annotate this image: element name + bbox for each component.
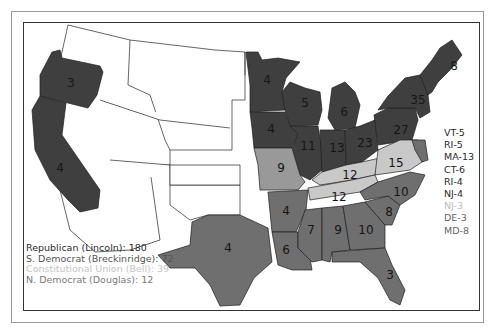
kansas-territory	[170, 165, 240, 185]
ev-label-IL: 11	[300, 139, 315, 153]
ev-label-IA: 4	[267, 122, 275, 136]
ev-label-ME: 8	[450, 59, 458, 73]
small-state-nj-ndem: NJ-3	[444, 200, 474, 212]
legend-constitutional-union: Constitutional Union (Bell): 39	[26, 264, 174, 275]
small-state-vt: VT-5	[444, 127, 474, 139]
legend: Republican (Lincoln): 180 S. Democrat (B…	[26, 243, 174, 285]
ev-label-TN: 12	[331, 190, 346, 204]
ev-label-CA: 4	[56, 161, 64, 175]
small-state-ri-2: RI-4	[444, 176, 474, 188]
ev-label-MN: 4	[263, 73, 271, 87]
ev-label-AL: 9	[334, 223, 342, 237]
state-FL	[332, 248, 405, 305]
ev-label-NY: 35	[410, 93, 425, 107]
ev-label-MS: 7	[307, 223, 315, 237]
ev-label-AR: 4	[282, 204, 290, 218]
small-state-ma: MA-13	[444, 151, 474, 163]
ev-label-OR: 3	[67, 76, 75, 90]
ev-label-FL: 3	[386, 268, 394, 282]
small-state-ri-1: RI-5	[444, 139, 474, 151]
ev-label-KY: 12	[342, 168, 357, 182]
ev-label-GA: 10	[358, 223, 373, 237]
ev-label-WI: 5	[301, 96, 309, 110]
ev-label-NC: 10	[393, 185, 408, 199]
ev-label-IN: 13	[329, 141, 344, 155]
ev-label-VA: 15	[388, 156, 403, 170]
state-TX	[158, 215, 272, 306]
legend-republican: Republican (Lincoln): 180	[26, 243, 174, 254]
small-state-md: MD-8	[444, 225, 474, 237]
small-state-de: DE-3	[444, 212, 474, 224]
small-states-list: VT-5 RI-5 MA-13 CT-6 RI-4 NJ-4 NJ-3 DE-3…	[444, 127, 474, 237]
small-state-nj-rep: NJ-4	[444, 188, 474, 200]
ev-label-LA: 6	[282, 243, 290, 257]
ev-label-SC: 8	[385, 205, 393, 219]
ev-label-MO: 9	[277, 161, 285, 175]
small-state-ct: CT-6	[444, 164, 474, 176]
legend-northern-democrat: N. Democrat (Douglas): 12	[26, 275, 174, 286]
ev-label-PA: 27	[393, 123, 408, 137]
ev-label-TX: 4	[224, 241, 232, 255]
ev-label-OH: 23	[357, 136, 372, 150]
ev-label-MI: 6	[340, 105, 348, 119]
